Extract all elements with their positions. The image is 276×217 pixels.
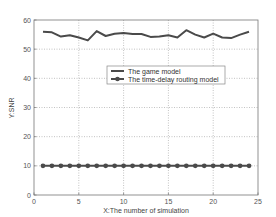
- y-tick-label: 50: [23, 46, 31, 53]
- data-point-marker: [58, 163, 63, 168]
- legend: The game model The time-delay routing mo…: [107, 66, 225, 84]
- data-point-marker: [103, 163, 108, 168]
- data-point-marker: [112, 163, 117, 168]
- data-point-marker: [193, 163, 198, 168]
- x-tick-label: 5: [77, 198, 81, 205]
- x-tick-label: 0: [32, 198, 36, 205]
- data-point-marker: [184, 163, 189, 168]
- data-point-marker: [85, 163, 90, 168]
- data-point-marker: [211, 163, 216, 168]
- x-tick-label: 20: [209, 198, 217, 205]
- y-tick-label: 0: [27, 192, 31, 199]
- data-point-marker: [157, 163, 162, 168]
- y-axis-label: Y:SNR: [8, 97, 15, 118]
- x-axis-label: X:The number of simulation: [103, 207, 189, 214]
- data-point-marker: [238, 163, 243, 168]
- data-point-marker: [94, 163, 99, 168]
- axis-ticks: 05101520250102030405060: [23, 17, 262, 206]
- data-point-marker: [121, 163, 126, 168]
- y-tick-label: 30: [23, 104, 31, 111]
- data-point-marker: [229, 163, 234, 168]
- data-point-marker: [67, 163, 72, 168]
- data-point-marker: [220, 163, 225, 168]
- x-tick-label: 25: [254, 198, 262, 205]
- legend-circle-marker-icon: [115, 77, 120, 82]
- data-point-marker: [50, 163, 55, 168]
- data-point-marker: [175, 163, 180, 168]
- data-point-marker: [41, 163, 46, 168]
- data-point-marker: [166, 163, 171, 168]
- data-point-marker: [247, 163, 252, 168]
- y-tick-label: 40: [23, 75, 31, 82]
- data-point-marker: [139, 163, 144, 168]
- grid-lines: [34, 20, 258, 195]
- series-line-0: [43, 30, 249, 40]
- data-series: [41, 30, 252, 168]
- y-tick-label: 20: [23, 133, 31, 140]
- data-point-marker: [202, 163, 207, 168]
- y-tick-label: 60: [23, 17, 31, 24]
- x-tick-label: 15: [165, 198, 173, 205]
- legend-label-time-delay-model: The time-delay routing model: [128, 76, 219, 84]
- legend-label-game-model: The game model: [128, 68, 181, 76]
- y-tick-label: 10: [23, 162, 31, 169]
- data-point-marker: [148, 163, 153, 168]
- snr-line-chart: 05101520250102030405060 X:The number of …: [0, 0, 276, 217]
- x-tick-label: 10: [120, 198, 128, 205]
- data-point-marker: [76, 163, 81, 168]
- data-point-marker: [130, 163, 135, 168]
